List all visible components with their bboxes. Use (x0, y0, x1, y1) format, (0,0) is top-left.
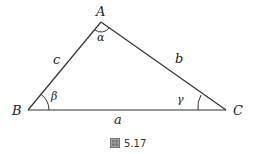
caption-label: 5.17 (124, 138, 146, 149)
vertex-label-a: A (95, 4, 105, 19)
side-c (28, 22, 101, 110)
angle-arc-gamma (198, 95, 201, 110)
angle-label-gamma: γ (177, 93, 184, 106)
triangle-diagram: A B C c b a α β γ 5.17 (0, 0, 256, 154)
vertex-label-c: C (233, 103, 243, 118)
side-b (101, 22, 226, 110)
angle-arc-beta (41, 94, 49, 110)
side-label-b: b (175, 51, 183, 66)
vertex-label-b: B (11, 103, 22, 118)
side-label-c: c (53, 52, 61, 67)
angle-label-alpha: α (97, 31, 105, 44)
angle-label-beta: β (50, 90, 57, 103)
caption: 5.17 (110, 138, 146, 149)
side-label-a: a (114, 112, 122, 127)
